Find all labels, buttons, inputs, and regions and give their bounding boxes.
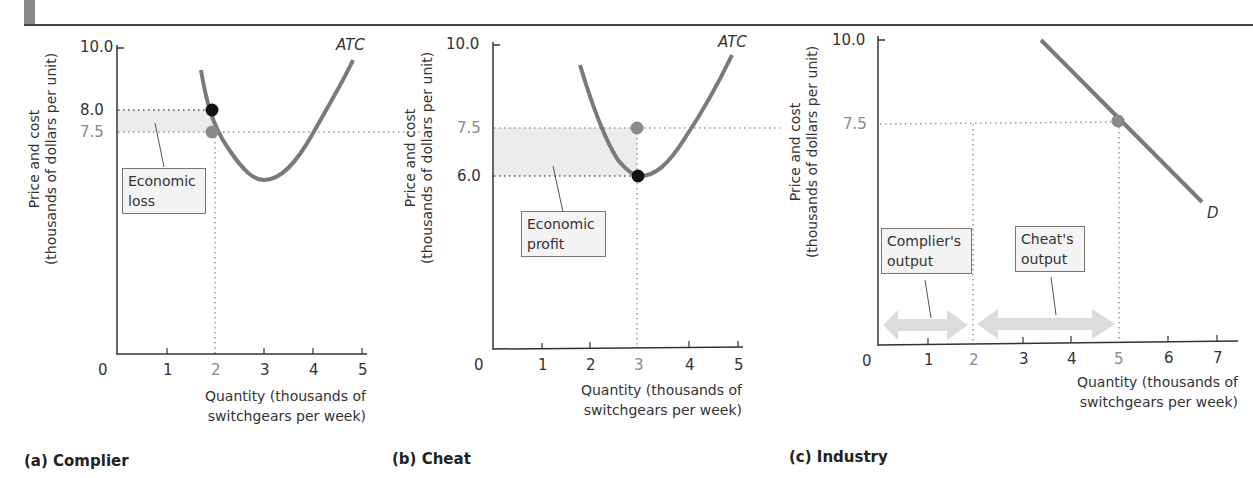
x-tick-5: 5 [1114, 350, 1124, 368]
compliers-output-callout: Complier'soutput [881, 228, 972, 274]
cheat-output-arrow [977, 309, 1115, 339]
x-tick-7: 7 [1213, 349, 1223, 367]
x-tick-4: 4 [1067, 350, 1077, 368]
caption-industry: (c) Industry [789, 448, 888, 466]
complier-output-arrow [883, 310, 968, 340]
demand-label: D [1207, 204, 1219, 222]
x-tick-1: 1 [924, 351, 934, 369]
y-axis-label: Price and cost(thousands of dollars per … [787, 32, 821, 272]
x-tick-3: 3 [1019, 350, 1029, 368]
x-tick-6: 6 [1164, 349, 1174, 367]
equilibrium-point [1112, 115, 1125, 128]
cheats-output-callout: Cheat'soutput [1015, 226, 1085, 272]
y-tick-10: 10.0 [832, 31, 865, 49]
y-tick-7-5: 7.5 [843, 115, 867, 133]
x-axis-label: Quantity (thousands ofswitchgears per we… [1052, 372, 1238, 412]
x-tick-0: 0 [862, 352, 872, 370]
x-tick-2: 2 [969, 351, 979, 369]
